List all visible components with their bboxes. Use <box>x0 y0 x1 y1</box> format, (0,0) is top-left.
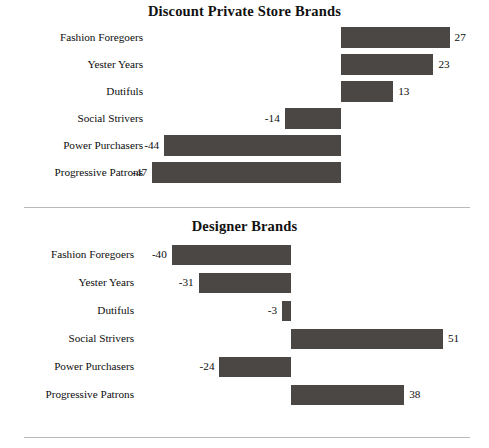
panel-separator-middle <box>24 207 470 208</box>
bar-row: Yester Years23 <box>0 51 489 78</box>
chart-panel-designer-brands: Designer Brands Fashion Foregoers-40Yest… <box>0 212 489 437</box>
bar-value-label: 27 <box>455 24 466 51</box>
bar-value-label: 13 <box>398 78 409 105</box>
category-label: Social Strivers <box>0 325 134 352</box>
bar <box>152 162 341 183</box>
bar-row: Social Strivers51 <box>0 325 489 352</box>
bar-value-label: -47 <box>132 159 147 186</box>
category-label: Social Strivers <box>0 105 143 132</box>
chart-title-top: Discount Private Store Brands <box>0 0 489 20</box>
bar-value-label: 51 <box>448 325 459 352</box>
bar-row: Fashion Foregoers27 <box>0 24 489 51</box>
category-label: Dutifuls <box>0 78 143 105</box>
bar-row: Dutifuls-3 <box>0 297 489 324</box>
bar-row: Yester Years-31 <box>0 269 489 296</box>
bar-row: Dutifuls13 <box>0 78 489 105</box>
category-label: Yester Years <box>0 269 134 296</box>
bar <box>291 385 404 405</box>
bar <box>219 357 291 377</box>
plot-area-top: Fashion Foregoers27Yester Years23Dutiful… <box>0 20 489 195</box>
bar <box>341 81 393 102</box>
category-label: Dutifuls <box>0 297 134 324</box>
bar <box>164 135 341 156</box>
bar-value-label: -14 <box>265 105 280 132</box>
category-label: Power Purchasers <box>0 353 134 380</box>
bar <box>199 273 291 293</box>
category-label: Progressive Patrons <box>0 159 143 186</box>
bar-value-label: -3 <box>268 297 277 324</box>
category-label: Fashion Foregoers <box>0 241 134 268</box>
bar-row: Power Purchasers-24 <box>0 353 489 380</box>
bar-value-label: -24 <box>200 353 215 380</box>
bar-value-label: 38 <box>409 381 420 408</box>
category-label: Power Purchasers <box>0 132 143 159</box>
panel-separator-bottom <box>24 437 470 438</box>
category-label: Progressive Patrons <box>0 381 134 408</box>
bar-value-label: -44 <box>144 132 159 159</box>
bar <box>285 108 341 129</box>
chart-title-bottom: Designer Brands <box>0 212 489 235</box>
plot-area-bottom: Fashion Foregoers-40Yester Years-31Dutif… <box>0 235 489 420</box>
category-label: Fashion Foregoers <box>0 24 143 51</box>
category-label: Yester Years <box>0 51 143 78</box>
bar <box>341 54 433 75</box>
chart-page: { "page": { "background": "#ffffff", "ba… <box>0 0 489 448</box>
bar <box>341 27 450 48</box>
bar <box>291 329 443 349</box>
bar-row: Progressive Patrons38 <box>0 381 489 408</box>
bar-row: Fashion Foregoers-40 <box>0 241 489 268</box>
bar-value-label: -40 <box>152 241 167 268</box>
bar-row: Power Purchasers-44 <box>0 132 489 159</box>
chart-panel-discount-private-store-brands: Discount Private Store Brands Fashion Fo… <box>0 0 489 207</box>
bar-row: Social Strivers-14 <box>0 105 489 132</box>
bar-value-label: -31 <box>179 269 194 296</box>
bar <box>282 301 291 321</box>
bar <box>172 245 291 265</box>
bar-value-label: 23 <box>438 51 449 78</box>
bar-row: Progressive Patrons-47 <box>0 159 489 186</box>
